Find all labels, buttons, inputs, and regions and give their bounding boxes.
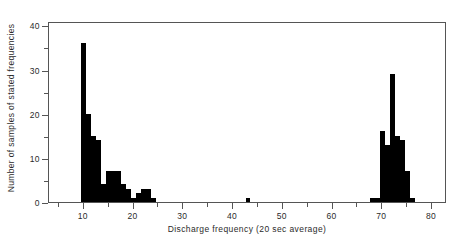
x-tick	[431, 203, 432, 209]
x-tick-label: 10	[71, 211, 95, 221]
x-minor-tick	[356, 203, 357, 207]
x-tick	[83, 203, 84, 209]
x-tick	[133, 203, 134, 209]
histogram-bars	[49, 23, 445, 202]
x-tick	[282, 203, 283, 209]
x-axis-title: Discharge frequency (20 sec average)	[48, 224, 446, 234]
x-minor-tick	[257, 203, 258, 207]
histogram-bar	[246, 198, 251, 202]
x-minor-tick	[157, 203, 158, 207]
x-tick-label: 70	[369, 211, 393, 221]
y-tick-label: 30	[20, 67, 40, 75]
x-minor-tick	[406, 203, 407, 207]
y-tick-label: 10	[20, 155, 40, 163]
x-minor-tick	[58, 203, 59, 207]
y-tick	[42, 203, 48, 204]
histogram-figure: Number of samples of stated frequencies …	[0, 0, 461, 250]
x-tick	[182, 203, 183, 209]
x-tick	[232, 203, 233, 209]
x-tick-label: 40	[220, 211, 244, 221]
x-tick-label: 30	[170, 211, 194, 221]
x-tick-label: 80	[419, 211, 443, 221]
y-tick-label: 40	[20, 22, 40, 30]
x-tick	[381, 203, 382, 209]
y-axis-title: Number of samples of stated frequencies	[2, 8, 20, 208]
y-tick-label: 0	[20, 199, 40, 207]
y-tick-label: 20	[20, 111, 40, 119]
x-tick-label: 50	[270, 211, 294, 221]
x-minor-tick	[207, 203, 208, 207]
x-minor-tick	[108, 203, 109, 207]
x-tick-label: 20	[121, 211, 145, 221]
x-minor-tick	[307, 203, 308, 207]
histogram-bar	[410, 198, 415, 202]
x-tick-label: 60	[320, 211, 344, 221]
histogram-bar	[151, 198, 156, 202]
x-tick	[332, 203, 333, 209]
plot-area	[48, 22, 446, 203]
